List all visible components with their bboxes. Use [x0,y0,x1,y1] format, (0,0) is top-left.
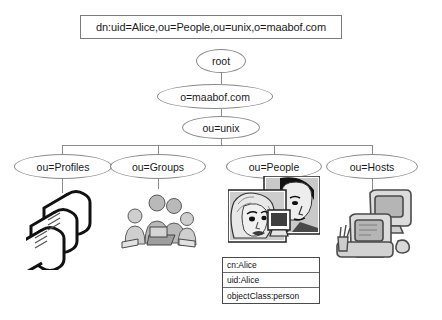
node-ou-hosts: ou=Hosts [326,154,418,179]
connector-bus [62,145,372,146]
people-group-illustration [117,189,203,251]
table-row: cn:Alice [223,258,319,273]
portrait-photos-illustration [228,176,320,254]
node-ou-people-label: ou=People [249,161,300,173]
ldap-tree-diagram: dn:uid=Alice,ou=People,ou=unix,o=maabof.… [0,0,442,320]
node-unix: ou=unix [182,116,260,139]
computers-illustration [336,185,422,265]
node-unix-label: ou=unix [202,122,239,134]
connector-root-to-org [221,73,222,84]
dn-box: dn:uid=Alice,ou=People,ou=unix,o=maabof.… [80,15,342,39]
connector-org-to-unix [221,109,222,116]
attr-cn: cn:Alice [227,260,257,270]
node-ou-profiles: ou=Profiles [14,154,112,179]
table-row: objectClass:person [223,288,319,303]
attr-uid: uid:Alice [227,275,259,285]
node-ou-hosts-label: ou=Hosts [350,161,395,173]
node-ou-groups: ou=Groups [110,154,206,179]
node-org: o=maabof.com [157,84,273,109]
scrolls-illustration [26,186,110,270]
dn-box-label: dn:uid=Alice,ou=People,ou=unix,o=maabof.… [96,21,326,33]
table-row: uid:Alice [223,273,319,288]
attribute-table: cn:Alice uid:Alice objectClass:person [222,257,320,304]
node-org-label: o=maabof.com [180,91,250,103]
node-root: root [196,49,246,73]
node-root-label: root [212,55,230,67]
attr-objectclass: objectClass:person [227,291,299,301]
node-ou-groups-label: ou=Groups [132,161,184,173]
node-ou-profiles-label: ou=Profiles [37,161,90,173]
